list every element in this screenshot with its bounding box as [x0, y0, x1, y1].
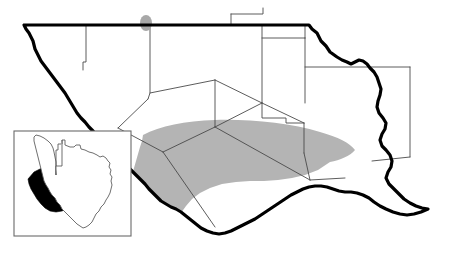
northern-locality-dot	[140, 15, 152, 31]
loving-ward-box	[231, 8, 263, 14]
texas-locator-inset	[14, 131, 131, 236]
distribution-map-figure	[0, 0, 450, 253]
loving-winkler-line	[231, 14, 262, 25]
map-canvas	[0, 0, 450, 253]
locality-point-markers	[140, 15, 152, 31]
